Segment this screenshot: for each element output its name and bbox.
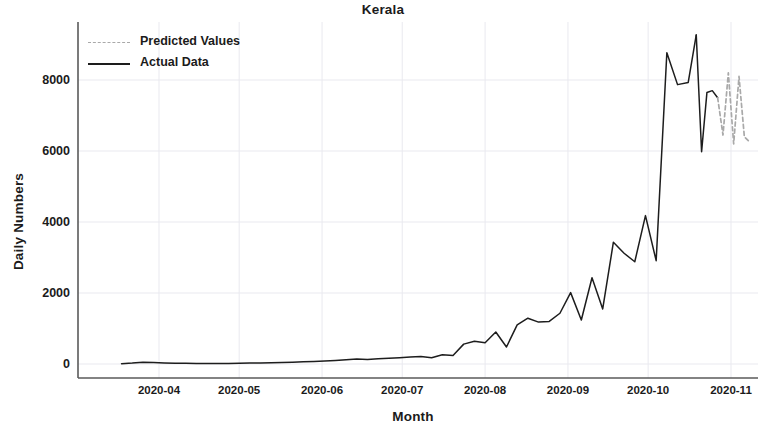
series-line-2: [718, 73, 750, 144]
data-series: [122, 35, 750, 364]
chart-legend: Predicted Values Actual Data: [88, 33, 278, 77]
legend-label-actual: Actual Data: [140, 55, 209, 69]
legend-item-actual: Actual Data: [88, 54, 278, 74]
legend-label-predicted: Predicted Values: [140, 34, 240, 48]
legend-swatch-dashed-line-icon: [88, 42, 130, 43]
series-line-0: [122, 35, 697, 364]
legend-item-predicted: Predicted Values: [88, 33, 278, 53]
legend-swatch-solid-line-icon: [88, 63, 130, 65]
series-line-1: [696, 35, 717, 152]
chart-figure: Kerala Daily Numbers Month 0200040006000…: [0, 0, 766, 434]
